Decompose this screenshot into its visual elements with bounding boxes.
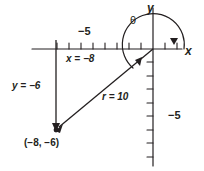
radius-label: r = 10 xyxy=(102,92,128,102)
y-axis-ticks xyxy=(147,62,153,157)
plotted-point xyxy=(54,128,59,133)
x-component-label: x = −8 xyxy=(66,54,94,64)
y-axis-label: y xyxy=(147,2,154,14)
x-axis-label: x xyxy=(185,45,192,57)
y-component-label: y = −6 xyxy=(12,81,40,91)
angle-theta-label: θ xyxy=(130,15,136,26)
x-axis-ticks xyxy=(57,43,177,49)
x-tick-label-negative-five: −5 xyxy=(78,26,91,37)
trigonometry-diagram: y x θ −5 −5 x = −8 y = −6 r = 10 (−8, −6… xyxy=(0,0,204,171)
y-tick-label-negative-five: −5 xyxy=(168,110,181,121)
point-coordinates-label: (−8, −6) xyxy=(24,138,59,148)
